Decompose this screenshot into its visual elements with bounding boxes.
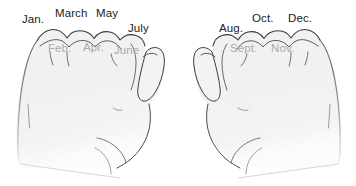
figure-canvas: Jan. March May July Feb. Apr. June Aug. …	[0, 0, 356, 186]
hands-illustration	[0, 0, 356, 186]
left-fist-group	[17, 29, 165, 178]
right-fist-group	[194, 29, 342, 178]
